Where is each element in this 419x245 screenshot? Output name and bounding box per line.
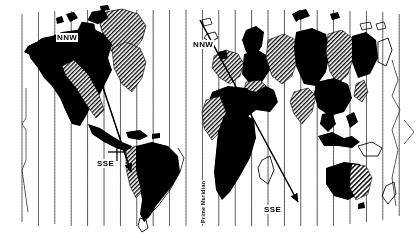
label-prime-meridian: Prime Meridian (200, 180, 206, 224)
label-nnw-west: NNW (56, 33, 78, 42)
world-map-figure: NNW NNW SSE SSE Prime Meridian (0, 0, 419, 245)
label-sse-east: SSE (263, 205, 282, 214)
label-nnw-east: NNW (192, 40, 214, 49)
label-sse-west: SSE (96, 159, 115, 168)
